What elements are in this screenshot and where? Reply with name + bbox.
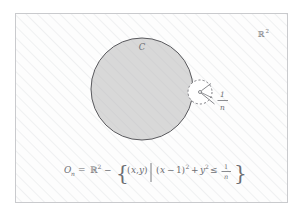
removed-disc bbox=[188, 80, 215, 104]
equation-right-brace: } bbox=[234, 161, 247, 185]
radius-denominator: n bbox=[220, 103, 225, 112]
plane-label-superscript: 2 bbox=[266, 28, 270, 34]
equation-minus: − bbox=[104, 165, 112, 175]
figure-canvas: C 1 n ℝ 2 O n = ℝ bbox=[0, 0, 301, 217]
equation-paren-open-2: ( bbox=[156, 165, 160, 175]
equation-subscript-n: n bbox=[71, 170, 75, 177]
disc-hatching bbox=[91, 38, 193, 140]
plane-label-symbol: ℝ bbox=[258, 30, 265, 39]
equation-equals: = bbox=[78, 165, 86, 175]
equation-plus: + bbox=[191, 165, 199, 175]
disc-label-c: C bbox=[139, 42, 146, 52]
closed-disc-c bbox=[91, 38, 193, 140]
radius-numerator: 1 bbox=[220, 90, 225, 99]
equation-minus-2: − bbox=[167, 165, 175, 175]
equation-paren-close-2: ) bbox=[182, 165, 186, 175]
equation-R-superscript: 2 bbox=[98, 163, 102, 170]
topology-figure: C 1 n ℝ 2 O n = ℝ bbox=[0, 0, 301, 217]
equation-paren-open-1: ( bbox=[127, 165, 131, 175]
equation-x-2: x bbox=[160, 165, 165, 175]
equation-square-2: 2 bbox=[205, 163, 209, 170]
equation-square-1: 2 bbox=[186, 163, 190, 170]
equation-paren-close-1: ) bbox=[144, 165, 148, 175]
equation-fraction-denominator: n bbox=[224, 173, 228, 181]
removed-disc-center-dot bbox=[199, 91, 202, 94]
equation-fraction-numerator: 1 bbox=[224, 163, 228, 171]
equation-leq: ≤ bbox=[210, 165, 218, 175]
